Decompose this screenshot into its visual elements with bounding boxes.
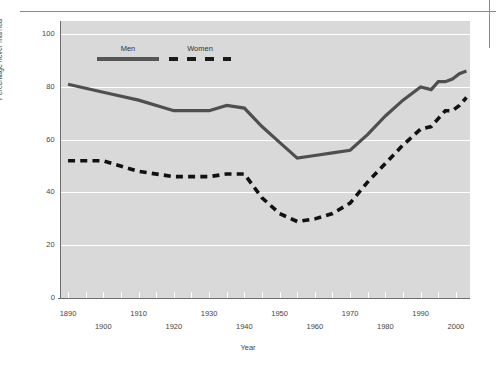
x-tick-label: 1970 <box>342 309 359 318</box>
top-horizontal-rule <box>20 11 496 12</box>
x-tick-label: 1900 <box>95 322 112 331</box>
plot-area: Men Women <box>61 21 470 298</box>
x-tick-label: 1890 <box>60 309 77 318</box>
x-tick-label: 1910 <box>130 309 147 318</box>
x-tick-label: 2000 <box>448 322 465 331</box>
right-vertical-rule <box>489 0 490 48</box>
y-tick-label: 60 <box>46 135 55 144</box>
x-tick-label: 1980 <box>377 322 394 331</box>
x-tick-label: 1940 <box>236 322 253 331</box>
y-tick-label: 100 <box>42 29 55 38</box>
y-tick-label: 0 <box>51 293 55 302</box>
x-tick-label: 1920 <box>165 322 182 331</box>
legend-label-women: Women <box>169 44 231 54</box>
x-tick-label: 1950 <box>271 309 288 318</box>
legend-swatch-women <box>169 57 231 61</box>
legend-entry-men: Men <box>97 44 159 61</box>
x-tick-label: 1990 <box>412 309 429 318</box>
y-axis-title: Percentage never married <box>0 19 3 100</box>
x-tick-label: 1930 <box>201 309 218 318</box>
y-tick-label: 80 <box>46 82 55 91</box>
y-tick-label: 40 <box>46 187 55 196</box>
y-tick-label: 20 <box>46 240 55 249</box>
line-series-women <box>68 98 466 222</box>
figure-canvas: Percentage never married 020406080100 18… <box>0 0 496 370</box>
x-axis-line <box>60 298 470 299</box>
line-series-men <box>68 71 466 158</box>
legend-entry-women: Women <box>169 44 231 61</box>
legend-label-men: Men <box>97 44 159 54</box>
chart-legend: Men Women <box>97 44 257 72</box>
x-axis-title: Year <box>0 343 496 352</box>
x-tick-label: 1960 <box>307 322 324 331</box>
legend-swatch-men <box>97 57 159 61</box>
